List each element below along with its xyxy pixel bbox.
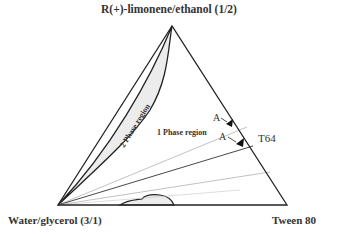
triangle-outline (58, 26, 287, 205)
point-arrow (221, 118, 227, 122)
point-label: A (219, 131, 227, 142)
t64-annotation: T64 (258, 132, 276, 144)
vertex-label-bottom-left: Water/glycerol (3/1) (8, 214, 102, 226)
point-label: A (213, 112, 221, 123)
one-phase-label: 1 Phase region (157, 128, 207, 137)
triangle-marker-icon (226, 119, 233, 127)
triangle-marker-icon (236, 138, 244, 147)
vertex-label-bottom-right: Tween 80 (272, 214, 316, 226)
ternary-diagram: 2 Phase region 1 Phase region A A T64 (0, 0, 338, 238)
point-arrow (228, 137, 236, 142)
